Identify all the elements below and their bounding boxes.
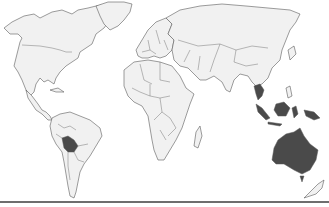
europe (136, 18, 174, 58)
sumatra (256, 104, 270, 120)
africa (124, 60, 194, 160)
mexico-central-america (26, 90, 52, 120)
australia (272, 128, 318, 174)
asia-mainland (166, 4, 300, 92)
new-zealand (304, 180, 324, 198)
madagascar (194, 126, 202, 148)
south-america (50, 112, 102, 198)
maritime-southeast-asia (256, 86, 320, 126)
world-map (0, 0, 329, 207)
japan (288, 46, 296, 60)
north-america (4, 2, 132, 120)
oceania (272, 128, 324, 198)
thailand-cambodia (254, 84, 264, 100)
map-bottom-rule (0, 201, 329, 203)
tasmania (300, 176, 304, 182)
java (268, 122, 282, 126)
borneo (274, 102, 290, 116)
asia (166, 4, 300, 100)
south-america-mainland (50, 112, 102, 198)
philippines (286, 86, 292, 98)
new-guinea (304, 110, 320, 120)
cuba (50, 88, 64, 92)
sulawesi (292, 106, 298, 118)
